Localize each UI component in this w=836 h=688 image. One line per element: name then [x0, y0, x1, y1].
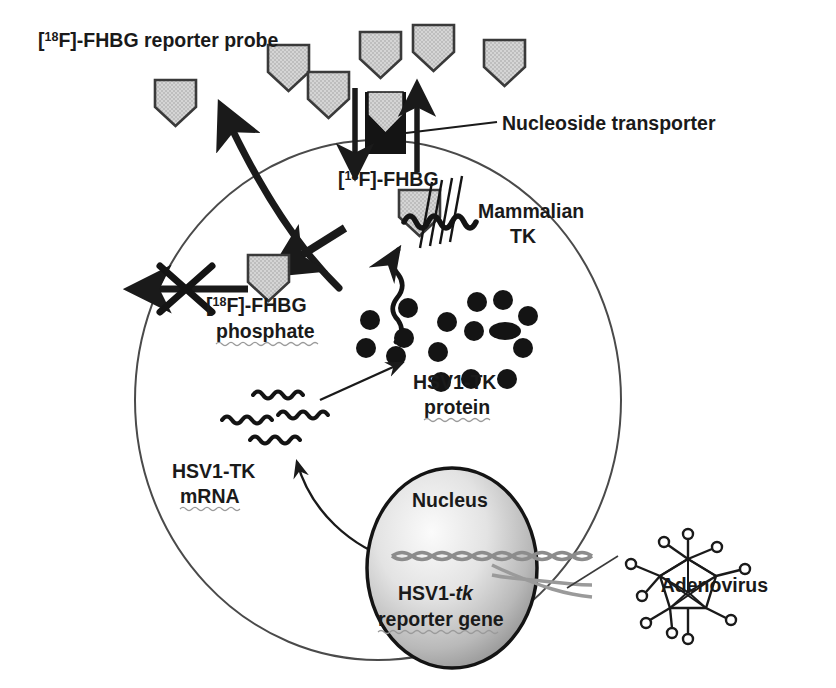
fhbg-probe-icon [413, 25, 454, 71]
tk-to-phosphate-squiggle [393, 250, 403, 342]
label-reporter-gene-line2: reporter gene [378, 608, 504, 630]
protein-spellcheck-squiggle [424, 419, 490, 422]
label-fhbg-intracellular: [18F]-FHBG [338, 168, 439, 190]
label-fhbg-reporter-probe: [18F]-FHBG reporter probe [38, 29, 278, 51]
label-nucleus: Nucleus [412, 489, 488, 511]
fhbg-probe-icon [155, 80, 196, 126]
label-hsv1-tk-mrna-line2: mRNA [180, 485, 240, 507]
label-hsv1-tk-protein-line2: protein [424, 396, 490, 418]
hsv1-tk-mrna-squiggles [222, 392, 328, 444]
pet-reporter-gene-diagram: [18F]-FHBG reporter probe Nucleoside tra… [0, 0, 836, 688]
nucleoside-transporter-icon [365, 92, 406, 154]
fhbg-probe-icon [268, 45, 309, 91]
label-mammalian-tk-line1: Mammalian [478, 200, 584, 222]
virus-entry-line [567, 556, 618, 588]
label-reporter-gene-line1: HSV1-tk [398, 582, 474, 604]
figure-root: [18F]-FHBG reporter probe Nucleoside tra… [0, 0, 836, 688]
label-fhbg-phosphate-line2: phosphate [216, 320, 315, 342]
label-adenovirus: Adenovirus [661, 574, 768, 596]
label-nucleoside-transporter: Nucleoside transporter [502, 112, 716, 134]
label-fhbg-phosphate-line1: [18F]-FHBG [206, 294, 307, 316]
fhbg-probe-icon [484, 40, 525, 86]
translation-arrow [320, 363, 402, 400]
label-hsv1-tk-protein-line1: HSV1-TK [413, 371, 496, 393]
label-mammalian-tk-line2: TK [510, 225, 536, 247]
fhbg-probe-icon [308, 72, 349, 118]
fhbg-probe-icon [360, 32, 401, 78]
label-hsv1-tk-mrna-line1: HSV1-TK [172, 460, 255, 482]
phosphate-spellcheck-squiggle [216, 343, 318, 346]
mrna-spellcheck-squiggle [180, 508, 240, 511]
